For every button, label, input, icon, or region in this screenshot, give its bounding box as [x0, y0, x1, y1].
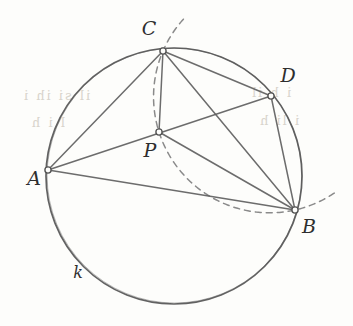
point-node-b: [292, 207, 298, 213]
point-label-d: D: [280, 66, 295, 85]
geometry-figure: il si ih i i h il l i h i li h A B C D P…: [0, 0, 353, 326]
chord-cb: [163, 51, 295, 210]
point-label-b: B: [302, 217, 316, 236]
chord-cd: [163, 51, 271, 96]
point-label-c: C: [142, 19, 157, 38]
point-label-p: P: [144, 141, 157, 160]
chord-segments-layer: [48, 51, 295, 210]
point-node-c: [160, 48, 166, 54]
point-nodes-layer: [45, 48, 298, 213]
chord-db: [271, 96, 295, 210]
chord-cp: [159, 51, 163, 132]
point-node-a: [45, 167, 51, 173]
point-node-d: [268, 93, 274, 99]
circle-label-k: k: [73, 265, 83, 281]
point-node-p: [156, 129, 162, 135]
chord-ab: [48, 170, 295, 210]
geometry-canvas: [0, 0, 353, 326]
point-label-a: A: [27, 169, 41, 188]
